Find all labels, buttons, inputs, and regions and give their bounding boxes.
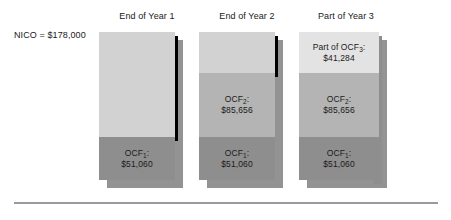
bar-stack-year-2: OCF2: $85,656 OCF1: $51,060 bbox=[199, 32, 275, 180]
bottom-divider bbox=[14, 202, 438, 204]
segment-ocf1-year-2-value: $51,060 bbox=[221, 159, 252, 170]
segment-ocf2-year-3: OCF2: $85,656 bbox=[299, 73, 379, 137]
segment-ocf3-part-year-3-label: Part of OCF3: bbox=[313, 42, 366, 53]
bar-column-year-3: Part of OCF3: $41,284 OCF2: $85,656 OCF1… bbox=[299, 32, 379, 180]
segment-ocf1-year-1: OCF1: $51,060 bbox=[99, 137, 175, 180]
segment-ocf1-year-2: OCF1: $51,060 bbox=[199, 137, 275, 180]
nico-label: NICO = $178,000 bbox=[14, 30, 86, 40]
segment-ocf1-year-3-value: $51,060 bbox=[323, 159, 354, 170]
column-header-year-2: End of Year 2 bbox=[193, 11, 301, 21]
segment-ocf2-year-3-label: OCF2: bbox=[327, 94, 351, 105]
segment-ocf2-year-3-value: $85,656 bbox=[323, 105, 354, 116]
segment-ocf2-year-2-label: OCF2: bbox=[225, 94, 249, 105]
segment-ocf1-year-2-label: OCF1: bbox=[225, 148, 249, 159]
segment-ocf2-year-2-value: $85,656 bbox=[221, 105, 252, 116]
segment-unrecovered-year-2 bbox=[199, 32, 275, 73]
segment-unrecovered-year-1 bbox=[99, 32, 175, 137]
column-header-year-3: Part of Year 3 bbox=[290, 11, 402, 21]
bar-stack-year-1: OCF1: $51,060 bbox=[99, 32, 175, 180]
segment-ocf1-year-1-value: $51,060 bbox=[121, 159, 152, 170]
column-header-year-1: End of Year 1 bbox=[93, 11, 201, 21]
bar-column-year-1: OCF1: $51,060 bbox=[99, 32, 175, 180]
segment-ocf3-part-year-3-value: $41,284 bbox=[323, 53, 354, 64]
payback-period-figure: NICO = $178,000 End of Year 1 End of Yea… bbox=[0, 0, 451, 220]
bar-stack-year-3: Part of OCF3: $41,284 OCF2: $85,656 OCF1… bbox=[299, 32, 379, 180]
segment-ocf2-year-2: OCF2: $85,656 bbox=[199, 73, 275, 137]
segment-ocf3-part-year-3: Part of OCF3: $41,284 bbox=[299, 32, 379, 73]
segment-ocf1-year-3-label: OCF1: bbox=[327, 148, 351, 159]
bar-column-year-2: OCF2: $85,656 OCF1: $51,060 bbox=[199, 32, 275, 180]
segment-ocf1-year-3: OCF1: $51,060 bbox=[299, 137, 379, 180]
segment-ocf1-year-1-label: OCF1: bbox=[125, 148, 149, 159]
